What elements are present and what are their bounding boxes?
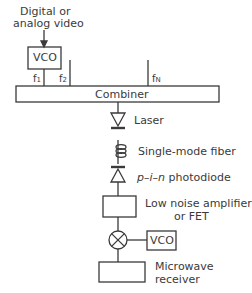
receiver-label-line1: Microwave <box>155 261 214 273</box>
f1-sub: 1 <box>37 76 41 84</box>
photodiode-italic: p–i–n <box>137 171 165 184</box>
fN-label: fN <box>152 73 161 86</box>
amplifier-box <box>103 196 136 217</box>
photodiode-rest: photodiode <box>165 171 231 184</box>
receiver-box <box>99 262 145 282</box>
laser-label: Laser <box>134 115 164 127</box>
f1-label: f1 <box>33 73 41 86</box>
amplifier-label-line2: or FET <box>174 211 209 223</box>
f2-label: f2 <box>59 73 67 86</box>
input-arrow-head <box>41 41 47 47</box>
photodiode-label: p–i–n photodiode <box>137 172 231 184</box>
vco-bottom-label: VCO <box>150 235 174 247</box>
input-label-line2: analog video <box>13 18 84 30</box>
photodiode-icon <box>111 169 125 182</box>
combiner-label: Combiner <box>95 89 148 101</box>
vco-top-label: VCO <box>33 52 57 64</box>
mixer-icon <box>109 231 127 249</box>
receiver-label-line2: receiver <box>155 274 200 286</box>
f2-sub: 2 <box>63 76 67 84</box>
fN-sub: N <box>156 76 161 84</box>
fiber-label: Single-mode fiber <box>138 146 236 158</box>
laser-diode-icon <box>111 113 125 126</box>
amplifier-label-line1: Low noise amplifier <box>145 198 252 210</box>
